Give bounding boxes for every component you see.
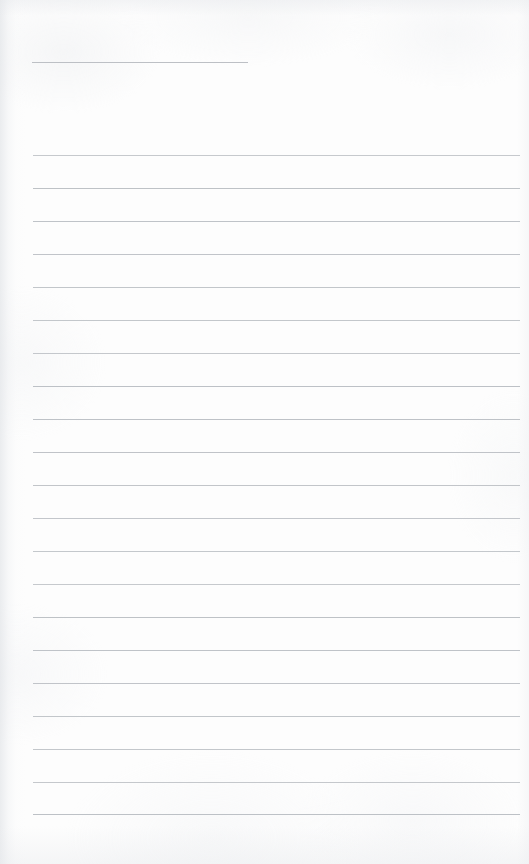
- ruled-line: [33, 485, 520, 486]
- ruled-line: [33, 254, 520, 255]
- ruled-line: [33, 650, 520, 651]
- ruled-line: [33, 386, 520, 387]
- ruled-line: [33, 419, 520, 420]
- ruled-line: [33, 683, 520, 684]
- ruled-line: [33, 518, 520, 519]
- ruled-line: [33, 814, 520, 815]
- ruled-line: [33, 584, 520, 585]
- ruled-line: [33, 452, 520, 453]
- ruled-line: [33, 188, 520, 189]
- ruled-line: [33, 617, 520, 618]
- ruled-line: [33, 551, 520, 552]
- ruled-line: [33, 749, 520, 750]
- ruled-line: [33, 287, 520, 288]
- ruled-lines-group: [0, 0, 529, 864]
- ruled-line: [33, 353, 520, 354]
- ruled-line: [33, 155, 520, 156]
- ruled-line: [33, 716, 520, 717]
- ruled-line: [33, 320, 520, 321]
- ruled-line: [33, 221, 520, 222]
- ruled-line: [33, 782, 520, 783]
- scanned-page: [0, 0, 529, 864]
